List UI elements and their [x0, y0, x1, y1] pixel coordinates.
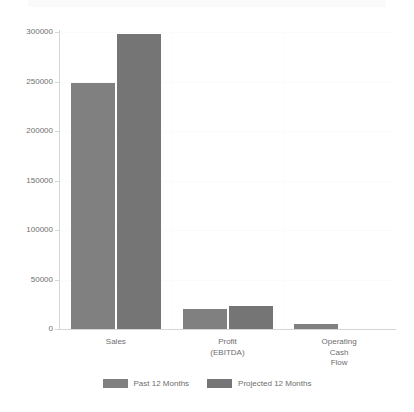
x-axis-category-label-line: Profit — [172, 337, 284, 348]
y-axis-tick-label: 150000 — [0, 177, 53, 185]
x-axis-category-label-line: (EBITDA) — [172, 348, 284, 359]
x-axis-category-label-line: Cash — [283, 348, 395, 359]
x-axis-category-label: Sales — [60, 337, 172, 348]
y-axis-tick-label: 0 — [0, 325, 53, 333]
x-axis-category-label: Profit(EBITDA) — [172, 337, 284, 358]
plot-area — [60, 32, 395, 329]
y-axis-tick-label: 200000 — [0, 127, 53, 135]
chart-legend: Past 12 MonthsProjected 12 Months — [0, 379, 414, 388]
x-axis-category-label-line: Sales — [60, 337, 172, 348]
legend-label: Projected 12 Months — [238, 379, 311, 388]
y-axis-tick-label: 100000 — [0, 226, 53, 234]
bar[interactable] — [71, 83, 115, 330]
legend-item[interactable]: Past 12 Months — [103, 379, 190, 388]
bar[interactable] — [294, 324, 338, 329]
gridline — [60, 32, 395, 33]
category-separator — [283, 32, 284, 329]
y-axis-tick-label: 250000 — [0, 78, 53, 86]
bar[interactable] — [229, 306, 273, 329]
legend-item[interactable]: Projected 12 Months — [207, 379, 311, 388]
bar[interactable] — [117, 34, 161, 329]
x-axis-line — [59, 329, 396, 330]
y-axis-tick-label: 50000 — [0, 276, 53, 284]
x-axis-category-label-line: Operating — [283, 337, 395, 348]
bar[interactable] — [183, 309, 227, 329]
x-axis-category-label: OperatingCashFlow — [283, 337, 395, 369]
top-cutoff-band — [28, 0, 386, 7]
y-axis-tick-label: 300000 — [0, 28, 53, 36]
legend-swatch — [103, 379, 128, 388]
category-separator — [172, 32, 173, 329]
x-axis-category-label-line: Flow — [283, 358, 395, 369]
legend-label: Past 12 Months — [134, 379, 190, 388]
legend-swatch — [207, 379, 232, 388]
bar-chart: 050000100000150000200000250000300000 Sal… — [0, 0, 414, 412]
